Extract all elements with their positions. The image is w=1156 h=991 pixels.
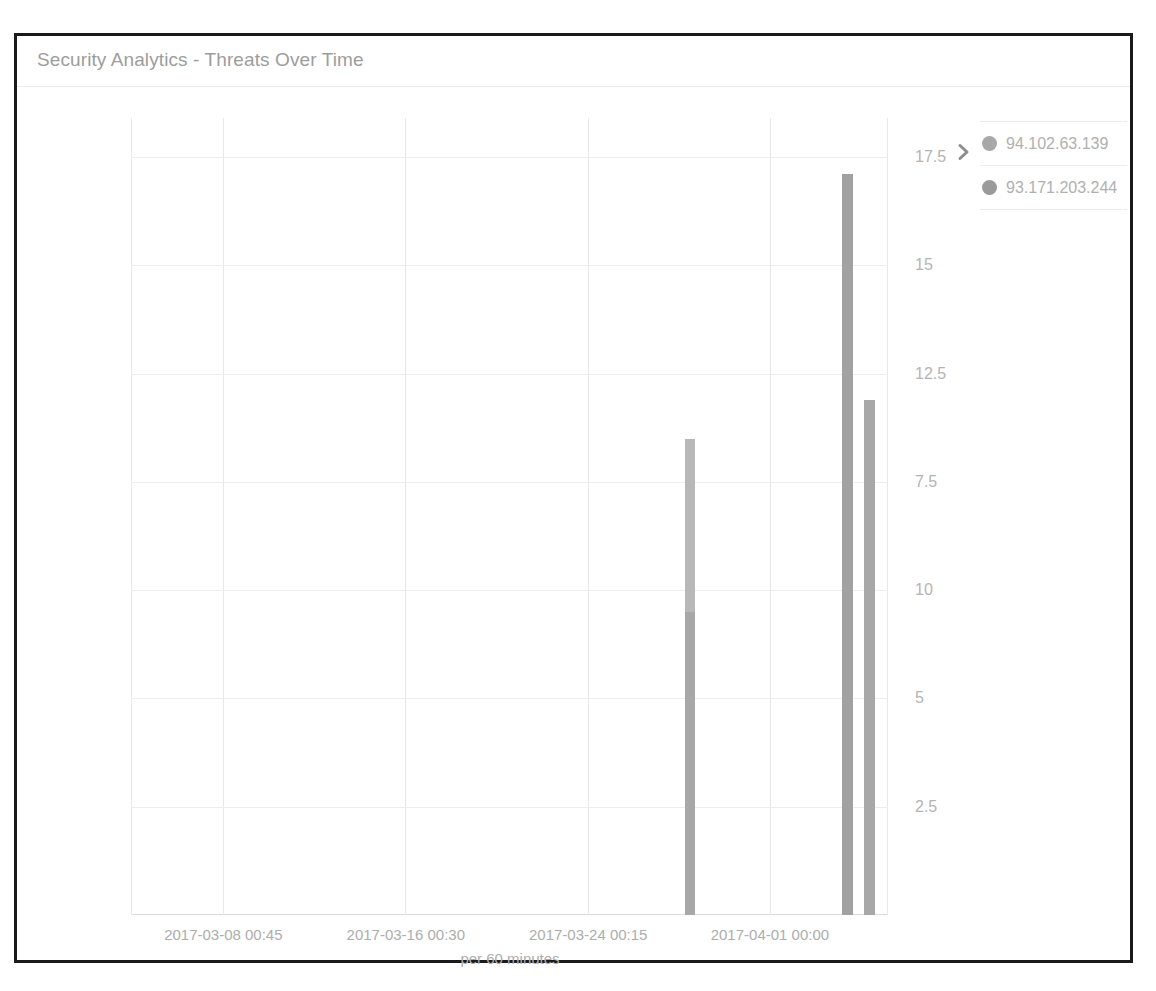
gridline-horizontal bbox=[131, 590, 888, 591]
threats-over-time-chart: 2.557.51012.51517.5 2017-03-08 00:452017… bbox=[17, 36, 1130, 960]
legend-item[interactable]: 93.171.203.244 bbox=[980, 166, 1127, 210]
x-axis-tick-label: 2017-03-08 00:45 bbox=[164, 926, 282, 943]
x-axis-tick-label: 2017-03-16 00:30 bbox=[347, 926, 465, 943]
gridline-horizontal bbox=[131, 374, 888, 375]
y-axis-tick-label: 5 bbox=[915, 689, 924, 707]
security-analytics-panel: Security Analytics - Threats Over Time 2… bbox=[14, 33, 1133, 963]
gridline-vertical bbox=[131, 118, 132, 915]
legend-item[interactable]: 94.102.63.139 bbox=[980, 121, 1127, 166]
bar-segment[interactable] bbox=[864, 400, 875, 915]
y-axis-tick-label: 2.5 bbox=[915, 798, 937, 816]
gridline-horizontal bbox=[131, 698, 888, 699]
screenshot-root: Security Analytics - Threats Over Time 2… bbox=[0, 0, 1156, 991]
legend-items: 94.102.63.13993.171.203.244 bbox=[980, 121, 1127, 210]
bar[interactable] bbox=[842, 174, 853, 915]
legend-item-label: 94.102.63.139 bbox=[1006, 135, 1108, 153]
gridline-horizontal bbox=[131, 265, 888, 266]
bar[interactable] bbox=[685, 439, 695, 915]
y-axis-tick-label: 10 bbox=[915, 581, 933, 599]
bar-segment[interactable] bbox=[685, 439, 695, 612]
gridline-horizontal bbox=[131, 807, 888, 808]
y-axis-tick-label: 15 bbox=[915, 256, 933, 274]
gridline-vertical bbox=[223, 118, 224, 915]
legend-color-dot-icon bbox=[982, 136, 997, 151]
x-axis-tick-label: 2017-03-24 00:15 bbox=[529, 926, 647, 943]
bar[interactable] bbox=[864, 400, 875, 915]
x-axis-label: per 60 minutes bbox=[460, 950, 559, 967]
x-axis-tick-label: 2017-04-01 00:00 bbox=[711, 926, 829, 943]
legend-item-label: 93.171.203.244 bbox=[1006, 179, 1117, 197]
x-axis-line bbox=[131, 914, 888, 915]
gridline-horizontal bbox=[131, 482, 888, 483]
bar-segment[interactable] bbox=[842, 174, 853, 915]
gridline-vertical bbox=[588, 118, 589, 915]
bar-segment[interactable] bbox=[685, 612, 695, 915]
y-axis-tick-label: 12.5 bbox=[915, 365, 946, 383]
gridline-vertical bbox=[405, 118, 406, 915]
y-axis-tick-label: 17.5 bbox=[915, 148, 946, 166]
gridline-vertical bbox=[887, 118, 888, 915]
legend-color-dot-icon bbox=[982, 180, 997, 195]
plot-area bbox=[131, 118, 888, 915]
gridline-vertical bbox=[770, 118, 771, 915]
chevron-right-icon[interactable] bbox=[955, 143, 973, 161]
y-axis-tick-label: 7.5 bbox=[915, 473, 937, 491]
gridline-horizontal bbox=[131, 157, 888, 158]
